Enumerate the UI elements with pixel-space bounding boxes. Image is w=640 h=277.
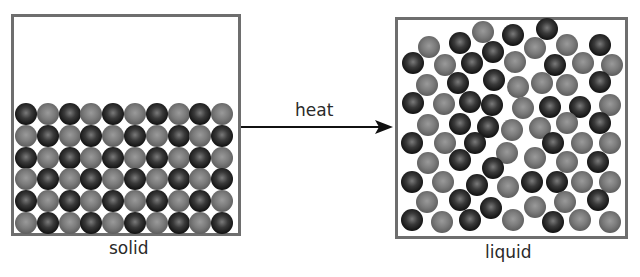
solid-particle <box>168 147 190 169</box>
liquid-particle <box>599 132 621 154</box>
solid-particle <box>124 147 146 169</box>
liquid-particle <box>542 132 564 154</box>
liquid-particle <box>546 171 568 193</box>
liquid-particle <box>497 176 519 198</box>
liquid-particle <box>431 211 453 233</box>
solid-particle <box>59 190 81 212</box>
solid-particle <box>37 103 59 125</box>
solid-particle <box>59 168 81 190</box>
liquid-particle <box>459 91 481 113</box>
liquid-particle <box>531 72 553 94</box>
liquid-particle <box>480 197 502 219</box>
liquid-particle <box>481 94 503 116</box>
liquid-particle <box>461 52 483 74</box>
liquid-particle <box>524 147 546 169</box>
liquid-particle <box>502 24 524 46</box>
liquid-particle <box>401 209 423 231</box>
liquid-particle <box>507 76 529 98</box>
solid-particle <box>168 103 190 125</box>
liquid-particle <box>536 18 558 40</box>
liquid-particle <box>464 132 486 154</box>
liquid-particle <box>589 71 611 93</box>
liquid-particle <box>571 171 593 193</box>
liquid-particle <box>572 52 594 74</box>
liquid-particle <box>449 32 471 54</box>
liquid-particle <box>402 52 424 74</box>
liquid-particle <box>483 69 505 91</box>
solid-particle <box>59 103 81 125</box>
liquid-particle <box>449 189 471 211</box>
liquid-particle <box>556 151 578 173</box>
liquid-particle <box>417 114 439 136</box>
liquid-particle <box>589 34 611 56</box>
solid-particle <box>146 103 168 125</box>
solid-particle <box>189 147 211 169</box>
solid-particle <box>146 147 168 169</box>
solid-particle <box>80 147 102 169</box>
solid-particle <box>168 125 190 147</box>
liquid-particle <box>504 51 526 73</box>
solid-particle <box>146 125 168 147</box>
liquid-particle <box>502 209 524 231</box>
solid-particle <box>124 212 146 234</box>
liquid-particle <box>402 92 424 114</box>
liquid-particle <box>589 112 611 134</box>
solid-particle <box>102 147 124 169</box>
liquid-particle <box>501 119 523 141</box>
liquid-particle <box>401 171 423 193</box>
solid-particle <box>211 125 233 147</box>
solid-label: solid <box>109 238 149 258</box>
liquid-particle <box>554 191 576 213</box>
liquid-particle <box>482 41 504 63</box>
liquid-particle <box>418 36 440 58</box>
liquid-particle <box>521 171 543 193</box>
liquid-particle <box>417 152 439 174</box>
liquid-particle <box>542 211 564 233</box>
liquid-label: liquid <box>485 242 532 262</box>
liquid-particle <box>433 93 455 115</box>
liquid-particle <box>524 37 546 59</box>
liquid-particle <box>569 209 591 231</box>
liquid-particle <box>466 174 488 196</box>
liquid-particle <box>416 191 438 213</box>
solid-particle <box>15 103 37 125</box>
solid-particle <box>168 190 190 212</box>
solid-particle <box>168 212 190 234</box>
heat-label: heat <box>295 100 333 120</box>
liquid-particle <box>482 157 504 179</box>
liquid-particle <box>512 97 534 119</box>
solid-particle <box>15 147 37 169</box>
solid-particle <box>59 125 81 147</box>
solid-particle <box>37 212 59 234</box>
solid-particle <box>168 168 190 190</box>
solid-particle <box>59 147 81 169</box>
solid-particle <box>15 125 37 147</box>
liquid-particle <box>556 74 578 96</box>
solid-particle <box>59 212 81 234</box>
liquid-particle <box>459 209 481 231</box>
liquid-particle <box>472 21 494 43</box>
liquid-particle <box>571 132 593 154</box>
liquid-particle <box>556 112 578 134</box>
liquid-particle <box>524 196 546 218</box>
liquid-particle <box>416 74 438 96</box>
solid-particle <box>146 212 168 234</box>
solid-particle <box>146 190 168 212</box>
solid-particle <box>37 190 59 212</box>
liquid-particle <box>401 132 423 154</box>
liquid-particle <box>449 113 471 135</box>
solid-particle <box>124 103 146 125</box>
solid-particle <box>15 212 37 234</box>
liquid-particle <box>587 151 609 173</box>
liquid-particle <box>432 171 454 193</box>
solid-particle <box>211 147 233 169</box>
liquid-particle <box>539 96 561 118</box>
solid-particle <box>124 125 146 147</box>
solid-particle <box>37 125 59 147</box>
liquid-particle <box>587 189 609 211</box>
solid-particle <box>102 125 124 147</box>
liquid-particle <box>556 34 578 56</box>
heat-arrow-icon <box>241 119 393 135</box>
liquid-particle <box>599 211 621 233</box>
solid-particle <box>37 147 59 169</box>
